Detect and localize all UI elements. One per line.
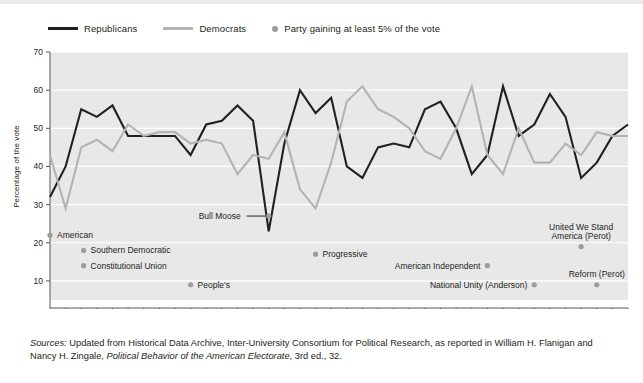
legend-label-republicans: Republicans [84, 23, 137, 34]
annotation-progressive-label: Progressive [323, 249, 368, 259]
legend-line-swatch-democrats [163, 27, 193, 30]
plot-area-wrapper: Percentage of the vote 70605040302010185… [0, 44, 643, 309]
legend-label-third-party: Party gaining at least 5% of the vote [284, 23, 440, 34]
source-prefix: Sources: [30, 338, 67, 348]
legend-line-swatch-republicans [48, 27, 78, 30]
annotation-southern-democratic-label: Southern Democratic [91, 245, 172, 255]
legend-item-democrats: Democrats [163, 23, 246, 34]
source-note: Sources: Updated from Historical Data Ar… [30, 337, 620, 364]
legend-label-democrats: Democrats [199, 23, 246, 34]
annotation-united-we-stand-dot [579, 244, 584, 249]
chart-legend: Republicans Democrats Party gaining at l… [48, 23, 466, 34]
annotation-national-unity-dot [532, 282, 537, 287]
annotation-peoples-label: People's [198, 280, 230, 290]
y-tick-label-20: 20 [34, 238, 44, 248]
y-tick-label-10: 10 [34, 276, 44, 286]
y-tick-label-70: 70 [34, 47, 44, 57]
line-chart-svg: 7060504030201018561860186418681872187618… [0, 44, 643, 309]
annotation-reform-perot-dot [594, 282, 599, 287]
annotation-reform-perot-label: Reform (Perot) [569, 269, 625, 279]
annotation-american-independent-label: American Independent [395, 261, 481, 271]
source-line3: ed., 32. [311, 351, 342, 361]
annotation-national-unity-label: National Unity (Anderson) [430, 280, 527, 290]
annotation-american-dot [47, 233, 52, 238]
source-line1: Updated from Historical Data Archive, In… [67, 338, 445, 348]
annotation-progressive-dot [313, 252, 318, 257]
y-tick-label-40: 40 [34, 161, 44, 171]
annotation-constitutional-union-dot [81, 263, 86, 268]
source-title-italic: Political Behavior of the American Elect… [106, 351, 289, 361]
legend-dot-icon [272, 26, 278, 32]
chart-page: Republicans Democrats Party gaining at l… [0, 0, 643, 383]
annotation-peoples-dot [188, 282, 193, 287]
annotation-bull-moose-label: Bull Moose [199, 211, 241, 221]
page-top-rule [0, 0, 643, 4]
annotation-united-we-stand-label-2: America (Perot) [551, 231, 611, 241]
source-line2c: , 3rd [290, 351, 309, 361]
legend-item-republicans: Republicans [48, 23, 137, 34]
annotation-southern-democratic-dot [81, 248, 86, 253]
annotation-bull-moose-dot [266, 213, 271, 218]
y-tick-label-50: 50 [34, 123, 44, 133]
y-tick-label-30: 30 [34, 200, 44, 210]
annotation-american-label: American [57, 230, 93, 240]
annotation-constitutional-union-label: Constitutional Union [91, 261, 167, 271]
annotation-american-independent-dot [485, 263, 490, 268]
y-tick-label-60: 60 [34, 85, 44, 95]
legend-item-third-party: Party gaining at least 5% of the vote [272, 23, 440, 34]
